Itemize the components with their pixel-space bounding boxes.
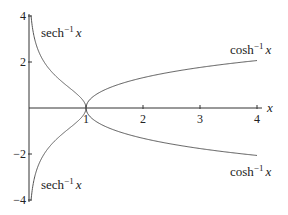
label-sech-lower: sech−1x [41, 176, 82, 192]
curve-acosh-positive [86, 61, 257, 108]
label-sech-upper: sech−1x [41, 24, 82, 40]
x-tick-label: 3 [197, 112, 203, 126]
y-tick-label: 4 [20, 9, 26, 23]
x-tick-label: 2 [140, 112, 146, 126]
label-cosh-upper: cosh−1x [230, 41, 271, 57]
y-tick-label: −4 [13, 193, 26, 207]
x-axis-label: x [266, 100, 273, 115]
x-tick-label: 4 [254, 112, 260, 126]
curve-acosh-negative [86, 108, 257, 155]
y-tick-label: 2 [20, 55, 26, 69]
axes [29, 14, 262, 202]
label-cosh-lower: cosh−1x [230, 163, 271, 179]
chart-canvas: 1234 −4−224 x sech−1x cosh−1x sech−1x co… [0, 0, 288, 215]
y-tick-label: −2 [13, 147, 26, 161]
